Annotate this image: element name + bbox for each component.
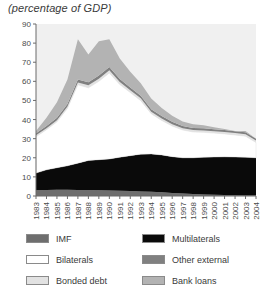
x-tick-label: 1987 — [74, 201, 83, 219]
y-axis-ticks: 0102030405060708090 — [22, 20, 36, 201]
x-tick-label: 1983 — [32, 201, 41, 219]
x-tick-label: 2001 — [221, 201, 230, 219]
legend-item-bonded-debt: Bonded debt — [26, 276, 142, 286]
x-tick-label: 1992 — [126, 201, 135, 219]
legend-item-other-external: Other external — [142, 255, 258, 265]
x-axis-ticks: 1983198419851986198719881989199019911992… — [32, 196, 261, 220]
x-tick-label: 1998 — [189, 201, 198, 219]
legend-item-bilaterals: Bilaterals — [26, 255, 142, 265]
stacked-area-plot: 0102030405060708090 19831984198519861987… — [0, 16, 267, 228]
y-tick-label: 90 — [22, 20, 31, 29]
y-tick-label: 70 — [22, 58, 31, 67]
legend-swatch — [142, 276, 165, 285]
y-tick-label: 0 — [27, 192, 32, 201]
x-tick-label: 1989 — [95, 201, 104, 219]
y-tick-label: 80 — [22, 39, 31, 48]
y-tick-label: 40 — [22, 116, 31, 125]
legend-label: Bonded debt — [56, 276, 107, 286]
legend-item-imf: IMF — [26, 234, 142, 244]
x-tick-label: 1995 — [158, 201, 167, 219]
x-tick-label: 1999 — [200, 201, 209, 219]
legend-item-multilaterals: Multilaterals — [142, 234, 258, 244]
chart-figure: (percentage of GDP) 0102030405060708090 … — [0, 0, 267, 293]
legend-swatch — [26, 255, 49, 264]
x-tick-label: 1997 — [179, 201, 188, 219]
legend-label: Bilaterals — [56, 255, 93, 265]
x-tick-label: 2002 — [231, 201, 240, 219]
x-tick-label: 1991 — [116, 201, 125, 219]
legend-item-bank-loans: Bank loans — [142, 276, 258, 286]
chart-title: (percentage of GDP) — [8, 2, 111, 14]
x-tick-label: 1984 — [42, 201, 51, 219]
x-tick-label: 1996 — [168, 201, 177, 219]
legend-swatch — [142, 255, 165, 264]
legend-label: Other external — [172, 255, 229, 265]
x-tick-label: 1985 — [53, 201, 62, 219]
legend-swatch — [26, 276, 49, 285]
x-tick-label: 2003 — [242, 201, 251, 219]
y-tick-label: 20 — [22, 154, 31, 163]
legend-label: Bank loans — [172, 276, 217, 286]
legend-label: IMF — [56, 234, 72, 244]
y-tick-label: 60 — [22, 77, 31, 86]
legend-label: Multilaterals — [172, 234, 220, 244]
legend-swatch — [142, 234, 165, 243]
x-tick-label: 2000 — [210, 201, 219, 219]
legend-swatch — [26, 234, 49, 243]
x-tick-label: 1988 — [84, 201, 93, 219]
x-tick-label: 1993 — [137, 201, 146, 219]
y-tick-label: 30 — [22, 135, 31, 144]
x-tick-label: 2004 — [252, 201, 261, 219]
chart-legend: IMFMultilateralsBilateralsOther external… — [26, 228, 258, 291]
x-tick-label: 1990 — [105, 201, 114, 219]
x-tick-label: 1986 — [63, 201, 72, 219]
y-tick-label: 50 — [22, 96, 31, 105]
x-tick-label: 1994 — [147, 201, 156, 219]
y-tick-label: 10 — [22, 173, 31, 182]
